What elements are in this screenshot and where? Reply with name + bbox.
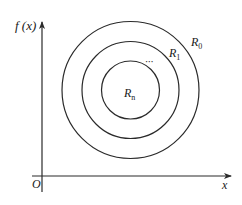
ellipsis-dots: ··· bbox=[145, 55, 154, 67]
region-label-r1: R1 bbox=[168, 46, 180, 62]
level-set-diagram: f (x) O x R0 R1 ··· Rn bbox=[0, 0, 242, 205]
region-label-r0: R0 bbox=[190, 35, 202, 51]
y-axis-label: f (x) bbox=[15, 18, 36, 33]
origin-label: O bbox=[32, 177, 41, 191]
x-axis-label: x bbox=[221, 178, 228, 192]
region-label-rn: Rn bbox=[123, 86, 135, 102]
